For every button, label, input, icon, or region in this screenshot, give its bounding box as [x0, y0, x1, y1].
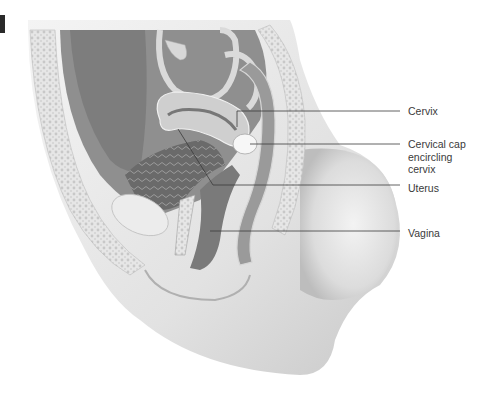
label-cervical-cap: Cervical cap encircling cervix — [408, 138, 466, 176]
label-vagina: Vagina — [408, 227, 440, 240]
label-uterus: Uterus — [408, 182, 439, 195]
label-cervix: Cervix — [408, 105, 438, 118]
pelvis-illustration — [0, 0, 484, 396]
